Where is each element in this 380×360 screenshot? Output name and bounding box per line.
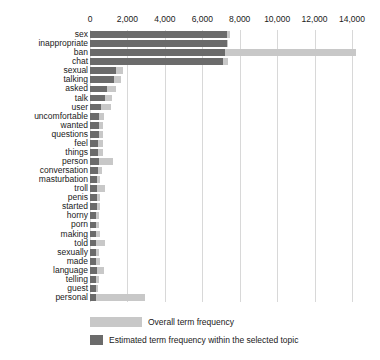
- bar-row[interactable]: [90, 212, 352, 219]
- bar-topic-frequency: [90, 67, 116, 74]
- bar-topic-frequency: [90, 104, 101, 111]
- gridline: [352, 30, 353, 302]
- bar-topic-frequency: [90, 158, 99, 165]
- bar-topic-frequency: [90, 203, 97, 210]
- chart-plot-area: [90, 30, 352, 302]
- bar-row[interactable]: [90, 67, 352, 74]
- bar-row[interactable]: [90, 131, 352, 138]
- x-axis-tick-labels: 02,0004,0006,0008,00010,00012,00014,000: [90, 14, 352, 28]
- bar-overall-frequency: [90, 294, 145, 301]
- chart-legend: Overall term frequencyEstimated term fre…: [90, 316, 380, 356]
- bar-topic-frequency: [90, 176, 97, 183]
- bar-topic-frequency: [90, 76, 114, 83]
- bar-row[interactable]: [90, 249, 352, 256]
- bar-topic-frequency: [90, 49, 225, 56]
- x-tick-label: 14,000: [339, 14, 365, 25]
- bar-row[interactable]: [90, 86, 352, 93]
- bar-topic-frequency: [90, 212, 96, 219]
- bar-row[interactable]: [90, 185, 352, 192]
- bar-topic-frequency: [90, 285, 96, 292]
- legend-swatch: [90, 335, 103, 345]
- bar-row[interactable]: [90, 167, 352, 174]
- bar-row[interactable]: [90, 76, 352, 83]
- bar-row[interactable]: [90, 285, 352, 292]
- bar-row[interactable]: [90, 176, 352, 183]
- bar-row[interactable]: [90, 122, 352, 129]
- legend-swatch: [90, 317, 142, 327]
- bar-row[interactable]: [90, 140, 352, 147]
- bar-topic-frequency: [90, 140, 98, 147]
- bar-row[interactable]: [90, 58, 352, 65]
- bar-row[interactable]: [90, 276, 352, 283]
- bar-row[interactable]: [90, 31, 352, 38]
- bar-topic-frequency: [90, 131, 99, 138]
- bar-row[interactable]: [90, 222, 352, 229]
- bar-topic-frequency: [90, 222, 96, 229]
- bar-row[interactable]: [90, 104, 352, 111]
- x-tick-label: 8,000: [229, 14, 250, 25]
- chart-page: 02,0004,0006,0008,00010,00012,00014,000 …: [0, 0, 380, 360]
- legend-label: Overall term frequency: [148, 317, 234, 327]
- bar-row[interactable]: [90, 49, 352, 56]
- bar-topic-frequency: [90, 167, 98, 174]
- legend-label: Estimated term frequency within the sele…: [109, 335, 298, 345]
- bar-row[interactable]: [90, 258, 352, 265]
- bar-topic-frequency: [90, 40, 227, 47]
- bar-row[interactable]: [90, 113, 352, 120]
- bar-row[interactable]: [90, 231, 352, 238]
- bar-row[interactable]: [90, 194, 352, 201]
- x-tick-label: 4,000: [154, 14, 175, 25]
- bar-topic-frequency: [90, 194, 97, 201]
- bar-topic-frequency: [90, 185, 97, 192]
- bar-row[interactable]: [90, 40, 352, 47]
- x-tick-label: 6,000: [192, 14, 213, 25]
- bar-row[interactable]: [90, 267, 352, 274]
- bar-topic-frequency: [90, 258, 96, 265]
- bar-topic-frequency: [90, 231, 96, 238]
- bar-row[interactable]: [90, 158, 352, 165]
- bar-topic-frequency: [90, 249, 96, 256]
- bar-row[interactable]: [90, 95, 352, 102]
- x-tick-label: 12,000: [302, 14, 328, 25]
- bar-topic-frequency: [90, 31, 227, 38]
- bar-topic-frequency: [90, 149, 98, 156]
- bar-topic-frequency: [90, 122, 99, 129]
- legend-item: Estimated term frequency within the sele…: [90, 334, 298, 345]
- legend-item: Overall term frequency: [90, 316, 234, 327]
- bar-row[interactable]: [90, 294, 352, 301]
- x-tick-label: 10,000: [264, 14, 290, 25]
- bar-topic-frequency: [90, 113, 99, 120]
- bar-topic-frequency: [90, 267, 97, 274]
- bar-row[interactable]: [90, 149, 352, 156]
- bar-topic-frequency: [90, 86, 107, 93]
- bar-topic-frequency: [90, 240, 96, 247]
- bar-row[interactable]: [90, 240, 352, 247]
- x-tick-label: 0: [88, 14, 93, 25]
- bar-topic-frequency: [90, 276, 96, 283]
- x-tick-label: 2,000: [117, 14, 138, 25]
- bar-row[interactable]: [90, 203, 352, 210]
- term-label[interactable]: personal: [55, 293, 88, 302]
- bar-topic-frequency: [90, 95, 105, 102]
- bar-topic-frequency: [90, 294, 96, 301]
- bar-topic-frequency: [90, 58, 223, 65]
